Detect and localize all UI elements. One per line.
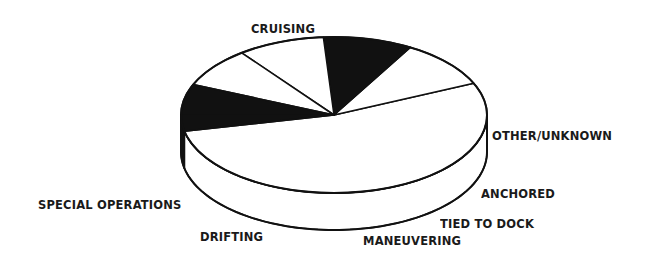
label-cruising: CRUISING bbox=[251, 21, 315, 36]
label-other-unknown: OTHER/UNKNOWN bbox=[492, 128, 612, 143]
label-maneuvering: MANEUVERING bbox=[363, 233, 461, 248]
label-anchored: ANCHORED bbox=[481, 186, 555, 201]
label-special-operations: SPECIAL OPERATIONS bbox=[38, 197, 182, 212]
label-drifting: DRIFTING bbox=[200, 229, 263, 244]
pie-chart: CRUISING SPECIAL OPERATIONS DRIFTING MAN… bbox=[0, 0, 660, 262]
label-tied-to-dock: TIED TO DOCK bbox=[440, 216, 534, 231]
